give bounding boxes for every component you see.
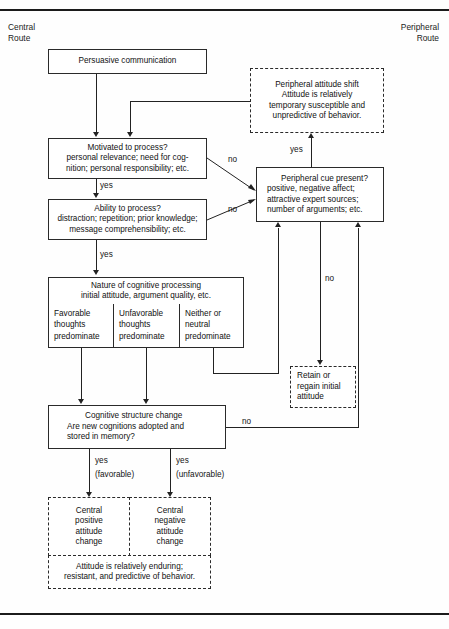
node-nature-of-cognitive-processing: Nature of cognitive processing initial a… — [48, 277, 244, 305]
arrowhead — [93, 270, 99, 275]
arrowhead — [78, 399, 84, 404]
node-line: predominate — [119, 331, 179, 342]
node-unfavorable-thoughts: Unfavorable thoughts predominate — [113, 304, 180, 348]
bottom-rule — [0, 613, 449, 615]
node-persuasive-communication: Persuasive communication — [48, 49, 207, 74]
edge-favorable-down — [81, 348, 82, 400]
edge-label-motivated-yes: yes — [100, 181, 113, 191]
node-line: Nature of cognitive processing — [91, 281, 201, 291]
edge-cognitive-no-h — [226, 427, 359, 428]
edge-shift-feedback-h — [130, 101, 250, 102]
arrowhead — [275, 222, 281, 227]
top-rule — [0, 9, 449, 11]
node-peripheral-attitude-shift: Peripheral attitude shift Attitude is re… — [250, 68, 384, 133]
node-line: temporary susceptible and — [269, 101, 365, 111]
node-ability-to-process: Ability to process? distraction; repetit… — [48, 199, 207, 240]
edge-cue-yes — [311, 138, 312, 168]
node-central-negative-attitude-change: Central negative attitude change — [129, 497, 211, 556]
node-line: initial attitude, argument quality, etc. — [81, 291, 211, 301]
node-line: number of arguments; etc. — [267, 205, 363, 215]
node-line: Central — [157, 506, 183, 516]
node-line: Neither or — [185, 308, 243, 319]
arrowhead — [308, 133, 314, 138]
node-line: attitude — [76, 527, 103, 537]
node-line: personal relevance; need for cog- — [67, 153, 189, 163]
edge-label-cognitive-no: no — [242, 417, 251, 427]
node-line: Ability to process? — [94, 204, 160, 214]
arrowhead — [167, 492, 173, 497]
edge-label-cue-no: no — [325, 274, 334, 284]
node-favorable-thoughts: Favorable thoughts predominate — [48, 304, 114, 348]
node-line: Peripheral cue present? — [281, 174, 368, 184]
arrowhead — [86, 492, 92, 497]
figure-canvas: Central Route Peripheral Route Persuasiv… — [0, 0, 449, 629]
node-line: Cognitive structure change — [85, 411, 182, 421]
node-line: Attitude is relatively — [282, 90, 353, 100]
edge-label-yes-favorable: yes — [95, 456, 108, 466]
edge-label-yes-unfavorable-qualifier: (unfavorable) — [176, 470, 224, 480]
edge-label-yes-favorable-qualifier: (favorable) — [95, 470, 134, 480]
edge-neither-v1 — [213, 348, 214, 374]
node-line: neutral — [185, 319, 243, 330]
node-line: predominate — [185, 331, 243, 342]
edge-label-motivated-no: no — [228, 155, 237, 165]
node-retain-or-regain-initial-attitude: Retain or regain initial attitude — [290, 366, 356, 408]
node-line: thoughts — [119, 319, 179, 330]
edge-label-yes-unfavorable: yes — [176, 456, 189, 466]
arrowhead — [355, 222, 361, 227]
edge-cue-no — [320, 222, 321, 361]
edge-motivated-yes — [96, 179, 97, 194]
node-line: Attitude is relatively enduring; — [76, 562, 183, 572]
edge-persuasive-to-motivated — [96, 74, 97, 133]
node-line: Peripheral attitude shift — [275, 80, 359, 90]
edge-neither-h — [213, 373, 279, 374]
edge-unfavorable-down — [146, 348, 147, 400]
arrowhead — [93, 193, 99, 198]
arrowhead — [143, 399, 149, 404]
node-line: unpredictive of behavior. — [273, 111, 362, 121]
edge-cognitive-yes-favorable — [89, 449, 90, 493]
edge-label-cue-yes: yes — [290, 145, 303, 155]
edge-label-ability-yes: yes — [100, 250, 113, 260]
node-line: Persuasive communication — [79, 56, 177, 66]
edge-cognitive-no-v — [358, 228, 359, 427]
node-line: stored in memory? — [67, 432, 135, 442]
node-line: regain initial — [297, 382, 341, 392]
central-route-label: Central Route — [8, 22, 35, 43]
node-attitude-enduring: Attitude is relatively enduring; resista… — [48, 555, 211, 589]
node-central-positive-attitude-change: Central positive attitude change — [48, 497, 130, 556]
edge-shift-feedback-v — [130, 101, 131, 133]
node-line: attitude — [297, 392, 324, 402]
arrowhead — [93, 132, 99, 137]
node-line: resistant, and predictive of behavior. — [64, 572, 195, 582]
node-line: Motivated to process? — [87, 143, 167, 153]
node-line: attitude — [157, 527, 184, 537]
node-line: distraction; repetition; prior knowledge… — [57, 214, 197, 224]
arrowhead — [127, 132, 133, 137]
edge-cognitive-yes-unfavorable — [170, 449, 171, 493]
edge-neither-v2 — [278, 228, 279, 374]
node-line: attractive expert sources; — [267, 195, 358, 205]
node-peripheral-cue-present: Peripheral cue present? positive, negati… — [256, 167, 384, 222]
node-line: positive — [75, 516, 103, 526]
arrowhead — [317, 360, 323, 365]
node-line: predominate — [54, 331, 113, 342]
node-line: thoughts — [54, 319, 113, 330]
node-line: Retain or — [297, 371, 330, 381]
node-cognitive-structure-change: Cognitive structure change Are new cogni… — [48, 405, 226, 449]
edge-ability-yes — [96, 240, 97, 271]
node-line: negative — [155, 516, 186, 526]
node-line: nition; personal responsibility; etc. — [66, 164, 189, 174]
node-motivated-to-process: Motivated to process? personal relevance… — [48, 138, 207, 179]
node-line: Are new cognitions adopted and — [67, 422, 184, 432]
node-line: Unfavorable — [119, 308, 179, 319]
node-line: Central — [76, 506, 102, 516]
node-line: change — [76, 537, 103, 547]
node-line: message comprehensibility; etc. — [69, 225, 186, 235]
node-line: Favorable — [54, 308, 113, 319]
node-neither-or-neutral: Neither or neutral predominate — [179, 304, 244, 348]
peripheral-route-label: Peripheral Route — [377, 22, 439, 43]
node-line: change — [157, 537, 184, 547]
node-line: positive, negative affect; — [267, 184, 355, 194]
edge-label-ability-no: no — [228, 205, 237, 215]
